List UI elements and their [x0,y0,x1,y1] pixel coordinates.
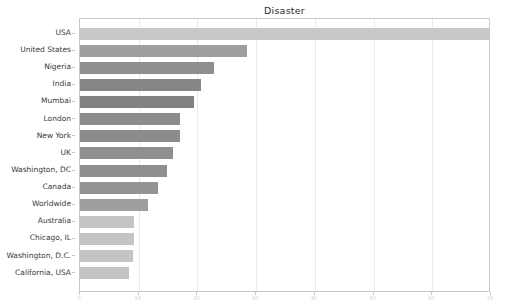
bar-row[interactable] [80,145,173,162]
y-tick-mark [72,84,75,85]
y-tick-label: Washington, D.C. [6,247,71,264]
y-tick-mark [72,187,75,188]
bar-row[interactable] [80,128,180,145]
y-tick-label: Washington, DC [11,161,71,178]
x-tick-label: 60 [428,295,434,301]
y-tick-label: United States [20,41,71,58]
bar[interactable] [80,96,194,108]
bar[interactable] [80,165,167,177]
bar[interactable] [80,45,247,57]
bar-row[interactable] [80,111,180,128]
x-tick-label: 50 [369,295,375,301]
y-tick-label: Nigeria [44,58,71,75]
y-tick-mark [72,272,75,273]
bar[interactable] [80,267,129,279]
y-tick-mark [72,67,75,68]
bar-row[interactable] [80,162,167,179]
y-tick-label: Worldwide [32,195,71,212]
bar-row[interactable] [80,42,247,59]
bar-row[interactable] [80,179,158,196]
y-tick-label: Chicago, IL [30,229,71,246]
y-tick-mark [72,152,75,153]
bar[interactable] [80,199,148,211]
x-tick-label: 70 [487,295,493,301]
bar[interactable] [80,28,490,40]
plot-area [79,18,490,292]
y-tick-mark [72,238,75,239]
chart-title: Disaster [79,5,490,16]
x-tick-label: 0 [77,295,80,301]
x-tick-label: 20 [193,295,199,301]
y-tick-label: Australia [38,212,71,229]
chart-figure: Disaster USAUnited StatesNigeriaIndiaMum… [0,0,505,303]
y-tick-mark [72,101,75,102]
y-tick-label: London [44,110,72,127]
bar-row[interactable] [80,76,201,93]
y-tick-label: New York [37,127,71,144]
x-tick-label: 30 [252,295,258,301]
y-tick-mark [72,135,75,136]
y-axis: USAUnited StatesNigeriaIndiaMumbaiLondon… [0,18,75,292]
y-tick-label: Mumbai [41,92,71,109]
y-tick-mark [72,255,75,256]
y-tick-mark [72,118,75,119]
bar-row[interactable] [80,25,490,42]
bar[interactable] [80,62,214,74]
x-tick-label: 40 [311,295,317,301]
bar[interactable] [80,216,134,228]
y-tick-mark [72,50,75,51]
bar-row[interactable] [80,196,148,213]
bar-row[interactable] [80,213,134,230]
y-tick-label: Canada [42,178,71,195]
bar-row[interactable] [80,93,194,110]
bar[interactable] [80,147,173,159]
bar[interactable] [80,130,180,142]
y-tick-mark [72,33,75,34]
bar[interactable] [80,182,158,194]
bar[interactable] [80,113,180,125]
y-tick-label: USA [55,24,71,41]
bar[interactable] [80,233,134,245]
y-tick-label: California, USA [15,264,71,281]
bar-row[interactable] [80,59,214,76]
y-tick-mark [72,221,75,222]
bar-row[interactable] [80,230,134,247]
x-tick-label: 10 [135,295,141,301]
bar[interactable] [80,79,201,91]
x-axis: 010203040506070 [79,292,490,303]
y-tick-mark [72,204,75,205]
bar-series [80,19,489,291]
bar[interactable] [80,250,133,262]
bar-row[interactable] [80,248,133,265]
y-tick-label: India [53,75,71,92]
bar-row[interactable] [80,265,129,282]
y-tick-mark [72,170,75,171]
y-tick-label: UK [61,144,71,161]
